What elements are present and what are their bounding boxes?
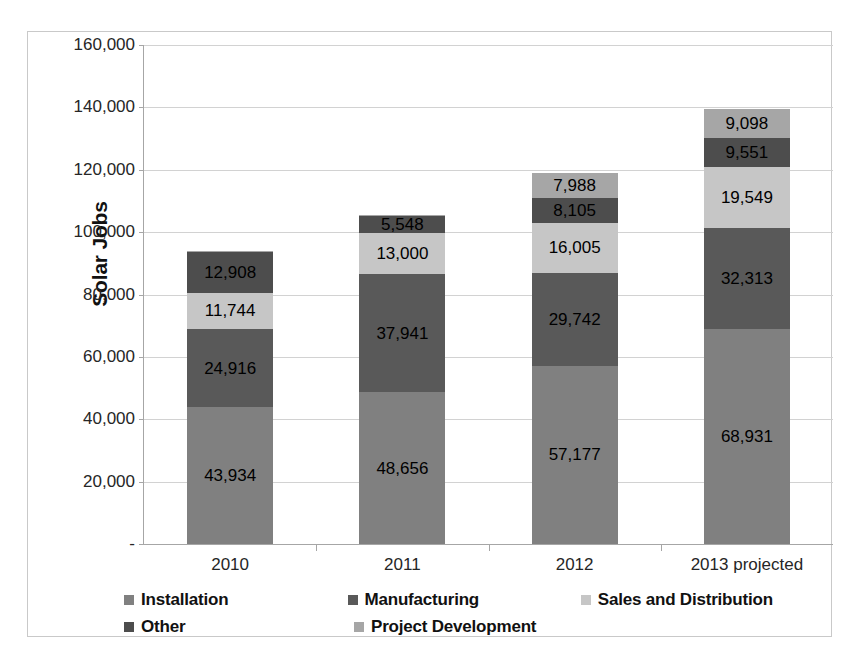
- bar-segment[interactable]: 11,744: [187, 293, 273, 330]
- bar-segment[interactable]: 13,000: [359, 233, 445, 274]
- bar-segment[interactable]: 16,005: [532, 223, 618, 273]
- y-tick-mark: [139, 295, 144, 296]
- y-tick-label: 20,000: [83, 472, 135, 492]
- y-tick-mark: [139, 357, 144, 358]
- y-tick-mark: [139, 482, 144, 483]
- legend-item[interactable]: Other: [124, 617, 354, 637]
- gridline: [144, 45, 833, 46]
- bar-segment-value: 43,934: [204, 467, 256, 484]
- y-tick-label: 80,000: [83, 285, 135, 305]
- bar-segment-value: 57,177: [549, 446, 601, 463]
- bar-segment-value: 13,000: [376, 245, 428, 262]
- y-tick-label: 100,000: [74, 222, 135, 242]
- bar-group[interactable]: 57,17729,74216,0058,1057,9882012: [532, 173, 618, 544]
- chart-figure: Solar Jobs -20,00040,00060,00080,000100,…: [27, 31, 832, 637]
- y-tick-label: 120,000: [74, 160, 135, 180]
- bar-segment[interactable]: 37,941: [359, 274, 445, 392]
- bar-segment[interactable]: 57,177: [532, 366, 618, 544]
- bar-segment[interactable]: 29,742: [532, 273, 618, 366]
- bar-segment-value: 48,656: [376, 460, 428, 477]
- x-axis-separator: [661, 544, 662, 551]
- legend-item[interactable]: Installation: [124, 590, 348, 610]
- legend-swatch-icon: [354, 622, 364, 632]
- bar-segment-value: 9,098: [726, 115, 769, 132]
- bar-segment[interactable]: 24,916: [187, 329, 273, 407]
- legend-item[interactable]: Manufacturing: [348, 590, 581, 610]
- legend-swatch-icon: [581, 595, 591, 605]
- legend-swatch-icon: [124, 595, 134, 605]
- bar-segment[interactable]: 32,313: [704, 228, 790, 329]
- y-tick-label: 140,000: [74, 97, 135, 117]
- y-tick-label: 160,000: [74, 35, 135, 55]
- bar-segment-value: 32,313: [721, 270, 773, 287]
- legend-label: Project Development: [371, 617, 536, 637]
- legend-swatch-icon: [348, 595, 358, 605]
- chart-legend: InstallationManufacturingSales and Distr…: [124, 586, 814, 640]
- legend-label: Other: [141, 617, 185, 637]
- legend-label: Manufacturing: [365, 590, 480, 610]
- bar-segment[interactable]: 8,105: [532, 198, 618, 223]
- legend-label: Installation: [141, 590, 228, 610]
- bar-segment[interactable]: 12,908: [187, 252, 273, 292]
- bar-group[interactable]: 68,93132,31319,5499,5519,0982013 project…: [704, 109, 790, 544]
- legend-label: Sales and Distribution: [598, 590, 773, 610]
- x-axis-separator: [316, 544, 317, 551]
- bar-segment-value: 68,931: [721, 428, 773, 445]
- legend-swatch-icon: [124, 622, 134, 632]
- y-axis-title: Solar Jobs: [88, 174, 112, 334]
- bar-segment[interactable]: 19,549: [704, 167, 790, 228]
- y-tick-mark: [139, 544, 144, 545]
- legend-item[interactable]: Sales and Distribution: [581, 590, 814, 610]
- bar-segment-value: 11,744: [205, 302, 256, 319]
- y-tick-label: -: [129, 534, 135, 554]
- y-tick-mark: [139, 170, 144, 171]
- bar-group[interactable]: 48,65637,94113,0005,5482011: [359, 215, 445, 544]
- x-axis-separator: [489, 544, 490, 551]
- plot-area: -20,00040,00060,00080,000100,000120,0001…: [143, 45, 833, 545]
- bar-group[interactable]: 43,93424,91611,74412,9082010: [187, 251, 273, 544]
- y-tick-mark: [139, 107, 144, 108]
- bar-segment-value: 5,548: [381, 216, 424, 233]
- x-tick-label: 2011: [384, 555, 421, 575]
- bar-segment-value: 19,549: [721, 189, 773, 206]
- y-tick-label: 40,000: [83, 409, 135, 429]
- y-tick-mark: [139, 45, 144, 46]
- bar-segment[interactable]: 68,931: [704, 329, 790, 544]
- bar-segment-value: 16,005: [549, 239, 601, 256]
- x-tick-label: 2012: [556, 555, 594, 575]
- y-tick-label: 60,000: [83, 347, 135, 367]
- bar-segment[interactable]: 48,656: [359, 392, 445, 544]
- bar-segment[interactable]: 7,988: [532, 173, 618, 198]
- x-tick-label: 2010: [211, 555, 249, 575]
- bar-segment-value: 8,105: [553, 202, 596, 219]
- bar-segment[interactable]: 5,548: [359, 216, 445, 233]
- x-tick-label: 2013 projected: [691, 555, 803, 575]
- legend-row: InstallationManufacturingSales and Distr…: [124, 586, 814, 613]
- bar-segment-value: 24,916: [204, 360, 256, 377]
- legend-row: OtherProject Development: [124, 613, 814, 640]
- bar-segment[interactable]: 9,098: [704, 109, 790, 137]
- y-tick-mark: [139, 419, 144, 420]
- bar-segment[interactable]: 43,934: [187, 407, 273, 544]
- bar-segment-value: 9,551: [726, 144, 769, 161]
- bar-segment[interactable]: [187, 251, 273, 253]
- y-tick-mark: [139, 232, 144, 233]
- legend-item[interactable]: Project Development: [354, 617, 594, 637]
- bar-segment[interactable]: [359, 215, 445, 216]
- bar-segment-value: 37,941: [376, 325, 428, 342]
- bar-segment-value: 7,988: [553, 177, 596, 194]
- bar-segment-value: 29,742: [549, 311, 601, 328]
- bar-segment-value: 12,908: [204, 264, 256, 281]
- bar-segment[interactable]: 9,551: [704, 138, 790, 168]
